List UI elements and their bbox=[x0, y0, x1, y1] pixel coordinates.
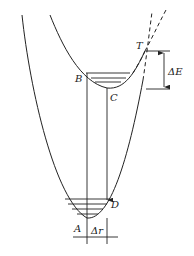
ground-state-curve bbox=[22, 15, 143, 218]
label-D: D bbox=[110, 199, 119, 210]
label-B: B bbox=[74, 73, 82, 84]
label-C: C bbox=[110, 92, 118, 103]
label-A: A bbox=[73, 223, 81, 234]
potential-energy-diagram: T B C D A ΔE Δr bbox=[0, 0, 194, 256]
ground-state-dashed-continuation bbox=[143, 12, 152, 80]
label-delta-r: Δr bbox=[90, 225, 104, 236]
label-delta-E: ΔE bbox=[167, 66, 183, 77]
label-T: T bbox=[136, 40, 144, 51]
excited-state-curve bbox=[50, 15, 145, 88]
